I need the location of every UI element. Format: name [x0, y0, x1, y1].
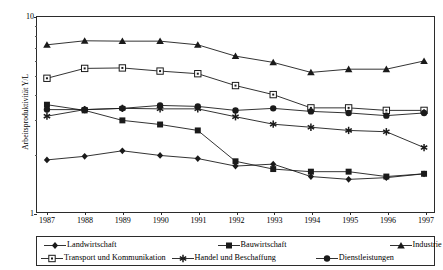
x-tick-mark	[85, 212, 86, 215]
y-tick-mark	[34, 214, 37, 215]
x-tick-label: 1995	[342, 217, 358, 225]
filled-square-icon	[218, 240, 240, 251]
x-tick-mark	[274, 212, 275, 215]
x-tick-mark	[350, 212, 351, 215]
y-axis-title: Arbeitsproduktivität Y/L	[22, 32, 29, 192]
legend-row: Transport und Kommunikation Handel und B…	[37, 252, 434, 265]
legend-item-bauwirtschaft[interactable]: Bauwirtschaft	[218, 240, 287, 251]
legend-item-label: Handel und Beschaffung	[194, 254, 276, 262]
x-tick-label: 1991	[191, 217, 207, 225]
x-tick-label: 1993	[266, 217, 282, 225]
filled-diamond-icon	[44, 240, 66, 251]
x-tick-label: 1989	[115, 217, 131, 225]
y-tick-minor-mark	[35, 36, 37, 37]
x-tick-mark	[47, 212, 48, 215]
legend-item-dienstleistungen[interactable]: Dienstleistungen	[316, 253, 394, 264]
y-tick-minor-mark	[35, 95, 37, 96]
legend-item-label: Industrie	[412, 241, 442, 249]
chart-legend: Landwirtschaft Bauwirtschaft Industrie T…	[36, 236, 435, 266]
plot-area: 110 198719881989199019911992199319941995…	[36, 16, 435, 213]
legend-item-label: Bauwirtschaft	[240, 241, 287, 249]
legend-item-handel-und-beschaffung[interactable]: Handel und Beschaffung	[172, 253, 276, 264]
legend-item-landwirtschaft[interactable]: Landwirtschaft	[44, 240, 117, 251]
x-tick-label: 1990	[153, 217, 169, 225]
x-tick-label: 1988	[77, 217, 93, 225]
y-tick-minor-mark	[35, 76, 37, 77]
x-tick-mark	[199, 212, 200, 215]
filled-circle-icon	[316, 253, 338, 264]
legend-row: Landwirtschaft Bauwirtschaft Industrie	[37, 239, 434, 252]
star-icon	[172, 253, 194, 264]
x-tick-mark	[388, 212, 389, 215]
y-tick-mark	[34, 17, 37, 18]
chart-canvas	[37, 17, 434, 212]
legend-item-label: Transport und Kommunikation	[63, 254, 166, 262]
y-tick-minor-mark	[35, 26, 37, 27]
x-tick-label: 1987	[39, 217, 55, 225]
filled-triangle-icon	[390, 240, 412, 251]
legend-item-transport-und-kommunikation[interactable]: Transport und Kommunikation	[41, 253, 166, 264]
legend-item-industrie[interactable]: Industrie	[390, 240, 442, 251]
legend-item-label: Landwirtschaft	[66, 241, 117, 249]
y-tick-minor-mark	[35, 48, 37, 49]
x-tick-mark	[312, 212, 313, 215]
x-tick-label: 1997	[418, 217, 434, 225]
chart-root: Arbeitsproduktivität Y/L 110 19871988198…	[0, 0, 443, 270]
x-tick-label: 1994	[304, 217, 320, 225]
x-tick-mark	[237, 212, 238, 215]
x-tick-mark	[161, 212, 162, 215]
legend-item-label: Dienstleistungen	[338, 254, 394, 262]
y-tick-minor-mark	[35, 155, 37, 156]
x-tick-label: 1996	[380, 217, 396, 225]
x-tick-mark	[123, 212, 124, 215]
x-tick-label: 1992	[229, 217, 245, 225]
y-tick-minor-mark	[35, 61, 37, 62]
x-tick-mark	[426, 212, 427, 215]
y-tick-label: 10	[26, 13, 34, 21]
open-square-icon	[41, 253, 63, 264]
y-tick-minor-mark	[35, 120, 37, 121]
